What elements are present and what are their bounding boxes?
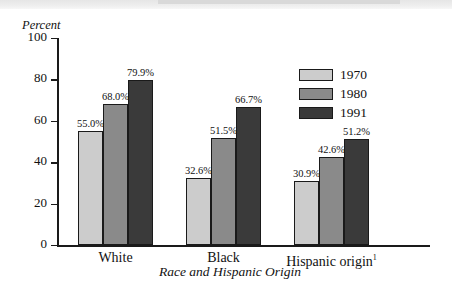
y-axis-line	[57, 38, 59, 245]
y-tick: 40	[51, 162, 57, 163]
legend-label: 1970	[340, 67, 367, 83]
scan-artifact-band-dark	[158, 0, 400, 4]
legend-swatch	[299, 107, 333, 119]
x-axis-title: Race and Hispanic Origin	[159, 264, 301, 280]
bar: 51.5%	[211, 138, 236, 245]
y-tick: 20	[51, 204, 57, 205]
bar: 51.2%	[344, 139, 369, 245]
legend-label: 1991	[340, 105, 367, 121]
bar-value-label: 32.6%	[185, 165, 212, 177]
legend-swatch	[299, 69, 333, 81]
y-tick: 80	[51, 79, 57, 80]
chart-figure: Percent 100806040200 55.0%68.0%79.9%32.6…	[0, 0, 452, 285]
x-axis-line	[57, 245, 430, 247]
bar-value-label: 30.9%	[293, 168, 320, 180]
y-tick: 0	[51, 245, 57, 246]
bar: 32.6%	[186, 178, 211, 245]
y-tick: 60	[51, 121, 57, 122]
bar-value-label: 55.0%	[77, 118, 104, 130]
bar-value-label: 68.0%	[102, 91, 129, 103]
footnote-marker: 1	[373, 253, 377, 262]
bar-value-label: 79.9%	[127, 67, 154, 79]
legend-item: 1970	[299, 66, 367, 83]
y-tick-label: 60	[34, 112, 47, 128]
bar: 68.0%	[103, 104, 128, 245]
bar-value-label: 66.7%	[235, 94, 262, 106]
bar: 55.0%	[78, 131, 103, 245]
legend-label: 1980	[340, 86, 367, 102]
bar: 42.6%	[319, 157, 344, 245]
legend-item: 1980	[299, 85, 367, 102]
y-tick: 100	[51, 38, 57, 39]
bar-value-label: 51.5%	[210, 125, 237, 137]
y-tick-label: 0	[41, 236, 48, 252]
plot-area: 100806040200 55.0%68.0%79.9%32.6%51.5%66…	[57, 38, 430, 245]
y-tick-label: 100	[28, 29, 48, 45]
bar-value-label: 51.2%	[343, 126, 370, 138]
y-tick-label: 40	[34, 153, 47, 169]
bar: 79.9%	[128, 80, 153, 245]
bar-value-label: 42.6%	[318, 144, 345, 156]
legend-item: 1991	[299, 104, 367, 121]
bar: 66.7%	[236, 107, 261, 245]
legend: 197019801991	[299, 66, 367, 123]
y-tick-label: 20	[34, 195, 47, 211]
group-label: White	[98, 249, 132, 267]
legend-swatch	[299, 88, 333, 100]
bar: 30.9%	[294, 181, 319, 245]
y-tick-label: 80	[34, 70, 47, 86]
